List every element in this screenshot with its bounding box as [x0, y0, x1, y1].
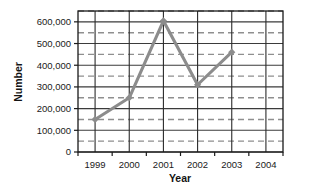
y-axis-tick-label: 400,000 — [37, 60, 71, 71]
x-axis-tick-label: 2001 — [153, 159, 174, 170]
y-axis-tick-label: 100,000 — [37, 125, 71, 136]
x-axis-tick-label: 2004 — [255, 159, 276, 170]
x-axis-tick-label: 1999 — [85, 159, 106, 170]
y-axis-tick-label: 200,000 — [37, 103, 71, 114]
y-axis-title: Number — [12, 62, 24, 102]
x-axis-tick-label: 2002 — [187, 159, 208, 170]
x-axis-title: Year — [169, 172, 191, 184]
chart-canvas: 0100,000200,000300,000400,000500,000600,… — [0, 0, 311, 193]
x-axis-tick-label: 2003 — [221, 159, 242, 170]
line-chart-figure: 0100,000200,000300,000400,000500,000600,… — [0, 0, 311, 193]
y-axis-tick-label: 0 — [66, 146, 71, 157]
y-axis-tick-label: 600,000 — [37, 16, 71, 27]
x-axis-tick-label: 2000 — [119, 159, 140, 170]
y-axis-tick-label: 500,000 — [37, 38, 71, 49]
y-axis-tick-label: 300,000 — [37, 81, 71, 92]
